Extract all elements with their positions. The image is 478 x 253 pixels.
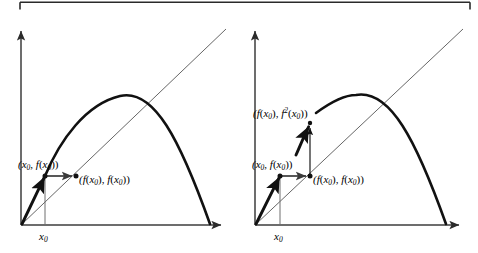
left-tick-label-x0: x0 [38, 230, 48, 244]
right-label-point-reflect: (f(x0), f(x0)) [313, 173, 364, 187]
right-point-x0-fx0 [278, 174, 283, 179]
left-parabola [45, 95, 210, 224]
cobweb-diagram-figure: (x0, f(x0)) (f(x0), f(x0)) x0 [0, 0, 478, 253]
right-point-fx0-f2x0 [308, 121, 312, 125]
right-panel: (f(x0), f2(x0)) (x0, f(x0)) (f(x0), f(x0… [252, 29, 463, 244]
right-parabola [316, 95, 446, 224]
left-iteration-segment [22, 177, 44, 224]
top-box-border [20, 2, 470, 9]
right-iteration-segment-2 [296, 127, 309, 155]
right-label-point-second: (f(x0), f2(x0)) [253, 106, 308, 121]
left-point-x0-fx0 [43, 174, 48, 179]
left-panel: (x0, f(x0)) (f(x0), f(x0)) x0 [18, 29, 226, 244]
figure-root: (x0, f(x0)) (f(x0), f(x0)) x0 [0, 0, 478, 253]
left-label-point-reflect: (f(x0), f(x0)) [79, 173, 130, 187]
right-tick-label-x0: x0 [273, 230, 283, 244]
right-point-fx0-fx0 [308, 174, 313, 179]
left-point-fx0-fx0 [74, 174, 79, 179]
right-iteration-segment-1 [256, 177, 279, 224]
left-label-point-start: (x0, f(x0)) [18, 158, 59, 172]
right-label-point-start: (x0, f(x0)) [252, 158, 293, 172]
right-identity-line [255, 29, 463, 225]
left-identity-line [21, 29, 226, 225]
